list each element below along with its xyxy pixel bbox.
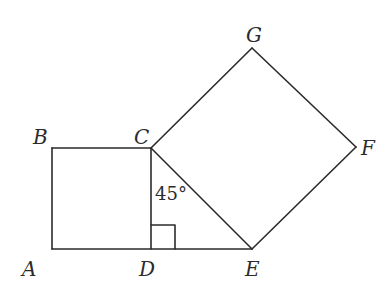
label-g: G xyxy=(246,23,262,47)
right-angle-mark xyxy=(151,225,175,249)
label-f: F xyxy=(360,136,376,160)
label-e: E xyxy=(244,257,260,281)
label-c: C xyxy=(134,125,149,149)
angle-label: 45° xyxy=(155,183,187,204)
label-b: B xyxy=(32,125,48,149)
diagram-svg: A B C D E F G 45° xyxy=(0,0,389,288)
segment-gf xyxy=(252,48,356,147)
geometry-diagram: A B C D E F G 45° xyxy=(0,0,389,288)
label-d: D xyxy=(138,257,155,281)
label-a: A xyxy=(20,257,36,281)
segment-fe xyxy=(252,147,356,249)
segment-cg xyxy=(151,48,252,148)
